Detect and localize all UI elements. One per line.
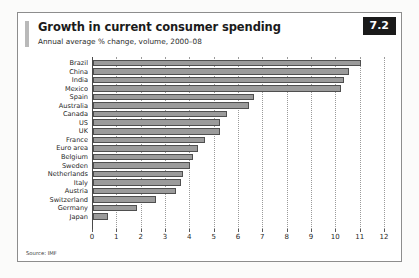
bar: [93, 77, 344, 84]
chart-header: Growth in current consumer spending Annu…: [38, 20, 347, 47]
bar-row: [93, 179, 384, 188]
category-label: UK: [18, 127, 88, 136]
category-label: Belgium: [18, 153, 88, 162]
tick-mark: [384, 229, 385, 232]
chart-card: Growth in current consumer spending Annu…: [17, 12, 402, 262]
bar-row: [93, 110, 384, 119]
tick-label: 0: [90, 233, 94, 241]
bar: [93, 179, 181, 186]
bar-row: [93, 68, 384, 77]
tick-label: 3: [163, 233, 167, 241]
category-label: Spain: [18, 93, 88, 102]
bar-row: [93, 127, 384, 136]
title-accent-rule: [25, 21, 29, 47]
category-label: Canada: [18, 110, 88, 119]
bar-row: [93, 187, 384, 196]
bar: [93, 128, 220, 135]
category-label: Japan: [18, 213, 88, 222]
chart-subtitle: Annual average % change, volume, 2000–08: [38, 36, 347, 47]
bar: [93, 145, 198, 152]
bar: [93, 60, 361, 67]
category-axis-labels: BrazilChinaIndiaMexicoSpainAustraliaCana…: [18, 59, 88, 221]
category-label: India: [18, 76, 88, 85]
figure-number-badge: 7.2: [363, 17, 397, 35]
bar-row: [93, 204, 384, 213]
tick-label: 4: [187, 233, 191, 241]
bar-row: [93, 59, 384, 68]
tick-label: 7: [260, 233, 264, 241]
tick-mark: [262, 229, 263, 232]
plot-wrapper: BrazilChinaIndiaMexicoSpainAustraliaCana…: [18, 57, 403, 242]
tick-mark: [141, 229, 142, 232]
category-label: Euro area: [18, 144, 88, 153]
bar: [93, 205, 137, 212]
category-label: Italy: [18, 179, 88, 188]
category-label: Sweden: [18, 162, 88, 171]
category-label: Netherlands: [18, 170, 88, 179]
tick-mark: [311, 229, 312, 232]
category-label: Germany: [18, 204, 88, 213]
bar: [93, 154, 193, 161]
bar-row: [93, 162, 384, 171]
category-label: France: [18, 136, 88, 145]
bar-series: [93, 59, 384, 221]
bar: [93, 196, 156, 203]
bar: [93, 94, 254, 101]
bar: [93, 111, 227, 118]
bar-row: [93, 102, 384, 111]
tick-mark: [165, 229, 166, 232]
category-label: China: [18, 68, 88, 77]
tick-label: 12: [380, 233, 389, 241]
bar-row: [93, 153, 384, 162]
bar: [93, 137, 205, 144]
bar: [93, 85, 341, 92]
tick-label: 9: [309, 233, 313, 241]
bar-row: [93, 196, 384, 205]
bar: [93, 188, 176, 195]
tick-label: 2: [138, 233, 142, 241]
category-label: US: [18, 119, 88, 128]
page-title: Growth in current consumer spending: [38, 20, 347, 34]
bar: [93, 213, 108, 220]
tick-mark: [214, 229, 215, 232]
bar-row: [93, 136, 384, 145]
plot-area: [92, 57, 384, 229]
bar: [93, 68, 349, 75]
tick-label: 11: [355, 233, 364, 241]
tick-mark: [360, 229, 361, 232]
bar: [93, 162, 190, 169]
bar-row: [93, 85, 384, 94]
category-label: Switzerland: [18, 196, 88, 205]
bar-row: [93, 76, 384, 85]
chart-page: Growth in current consumer spending Annu…: [0, 0, 419, 278]
tick-mark: [238, 229, 239, 232]
bar: [93, 102, 249, 109]
tick-label: 10: [331, 233, 340, 241]
tick-mark: [116, 229, 117, 232]
category-label: Mexico: [18, 85, 88, 94]
gridline: [384, 57, 385, 229]
bar-row: [93, 119, 384, 128]
category-label: Brazil: [18, 59, 88, 68]
tick-mark: [189, 229, 190, 232]
category-label: Austria: [18, 187, 88, 196]
bar-row: [93, 170, 384, 179]
bar-row: [93, 93, 384, 102]
tick-label: 5: [211, 233, 215, 241]
bar-row: [93, 213, 384, 222]
tick-label: 6: [236, 233, 240, 241]
source-note: Source: IMF: [26, 250, 57, 256]
tick-mark: [92, 229, 93, 232]
tick-label: 8: [284, 233, 288, 241]
bar: [93, 171, 183, 178]
bar: [93, 119, 220, 126]
category-label: Australia: [18, 102, 88, 111]
bar-row: [93, 144, 384, 153]
tick-label: 1: [114, 233, 118, 241]
tick-mark: [287, 229, 288, 232]
x-axis-ticks: 0123456789101112: [92, 229, 384, 245]
tick-mark: [335, 229, 336, 232]
